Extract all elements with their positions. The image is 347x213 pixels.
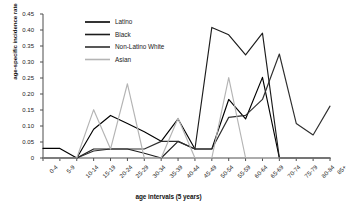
- x-tick-label: 80-84: [321, 164, 336, 179]
- x-axis-title: age intervals (5 years): [0, 193, 337, 200]
- legend-label-asian: Asian: [115, 56, 131, 63]
- x-tick-label: 5-9: [65, 164, 75, 174]
- legend-label-non-latino-white: Non-Latino White: [115, 43, 164, 50]
- x-tick-label: 0-4: [49, 164, 59, 174]
- x-tick-label: 10-14: [84, 164, 99, 179]
- x-tick-label: 70-74: [287, 164, 302, 179]
- x-tick-label: 45-49: [202, 164, 217, 179]
- x-tick-label: 15-19: [101, 164, 116, 179]
- x-tick-label: 35-39: [169, 164, 184, 179]
- x-tick-label: 75-79: [304, 164, 319, 179]
- x-tick-label: 20-24: [118, 164, 133, 179]
- x-tick-label: 85+: [336, 164, 347, 175]
- x-tick-label: 40-44: [186, 164, 201, 179]
- x-tick-label: 30-34: [152, 164, 167, 179]
- x-tick-label: 50-54: [219, 164, 234, 179]
- legend-label-black: Black: [115, 31, 131, 38]
- x-tick-label: 55-59: [236, 164, 251, 179]
- x-tick-label: 65-69: [270, 164, 285, 179]
- x-tick-label: 25-29: [135, 164, 150, 179]
- legend-label-latino: Latino: [115, 18, 132, 25]
- x-tick-label: 60-64: [253, 164, 268, 179]
